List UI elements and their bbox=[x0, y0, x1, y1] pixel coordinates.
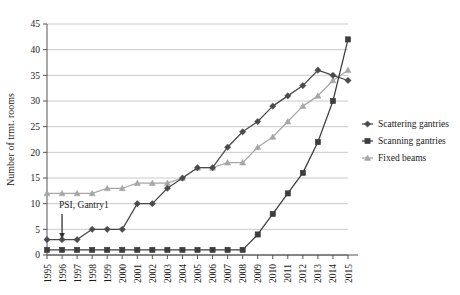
legend-entry-scanning-gantries: Scanning gantries bbox=[362, 136, 446, 146]
x-tick-label: 1997 bbox=[73, 264, 83, 283]
y-tick-label: 30 bbox=[31, 96, 41, 106]
data-point bbox=[255, 144, 261, 149]
legend-entry-scattering-gantries: Scattering gantries bbox=[362, 119, 449, 129]
line-chart: 0510152025303540451995199619971998199920… bbox=[0, 0, 460, 295]
data-point bbox=[210, 247, 215, 252]
x-tick-label: 2015 bbox=[344, 264, 354, 283]
y-axis-label-text: Number of trmt. rooms bbox=[5, 93, 16, 186]
legend-label: Scanning gantries bbox=[378, 136, 446, 146]
y-tick-label: 25 bbox=[31, 122, 41, 132]
data-point bbox=[225, 247, 230, 252]
data-point bbox=[270, 211, 275, 216]
data-point bbox=[135, 247, 140, 252]
legend-label: Fixed beams bbox=[378, 153, 427, 163]
y-axis-ticks: 051015202530354045 bbox=[31, 19, 48, 260]
data-point bbox=[134, 201, 140, 207]
x-tick-label: 2009 bbox=[253, 264, 263, 283]
x-tick-label: 2013 bbox=[313, 264, 323, 283]
data-point bbox=[330, 98, 335, 103]
data-point bbox=[180, 247, 185, 252]
x-tick-label: 2006 bbox=[208, 264, 218, 283]
y-tick-label: 20 bbox=[31, 148, 41, 158]
y-tick-label: 40 bbox=[31, 45, 41, 55]
chart-figure: 0510152025303540451995199619971998199920… bbox=[0, 0, 460, 295]
x-tick-label: 1999 bbox=[103, 264, 113, 283]
legend-marker bbox=[364, 121, 370, 127]
y-gridlines bbox=[47, 24, 348, 255]
data-point bbox=[195, 247, 200, 252]
y-tick-label: 45 bbox=[31, 19, 41, 29]
legend-label: Scattering gantries bbox=[378, 119, 449, 129]
y-tick-label: 15 bbox=[31, 173, 41, 183]
series-scanning-gantries bbox=[44, 37, 350, 253]
x-tick-label: 2002 bbox=[148, 264, 158, 283]
x-tick-label: 2005 bbox=[193, 264, 203, 283]
data-point bbox=[240, 247, 245, 252]
y-tick-label: 35 bbox=[31, 71, 41, 81]
y-axis-label: Number of trmt. rooms bbox=[5, 93, 16, 186]
series-line bbox=[47, 70, 348, 239]
data-point bbox=[44, 237, 50, 243]
data-point bbox=[345, 67, 351, 72]
data-point bbox=[59, 247, 64, 252]
data-point bbox=[75, 247, 80, 252]
x-tick-label: 2008 bbox=[238, 264, 248, 283]
legend-marker bbox=[365, 138, 370, 143]
x-tick-label: 1998 bbox=[88, 264, 98, 283]
annotation-label: PSI, Gantry1 bbox=[59, 200, 109, 210]
x-tick-label: 2004 bbox=[178, 264, 188, 283]
series-scattering-gantries bbox=[44, 67, 351, 243]
data-point bbox=[44, 247, 49, 252]
data-point bbox=[104, 226, 110, 232]
y-tick-label: 10 bbox=[31, 199, 41, 209]
y-tick-label: 5 bbox=[35, 225, 40, 235]
x-tick-label: 2011 bbox=[283, 264, 293, 283]
data-point bbox=[300, 170, 305, 175]
x-tick-label: 2003 bbox=[163, 264, 173, 283]
legend-entry-fixed-beams: Fixed beams bbox=[362, 153, 427, 163]
data-point bbox=[345, 37, 350, 42]
data-point bbox=[119, 226, 125, 232]
data-point bbox=[255, 232, 260, 237]
data-point bbox=[165, 247, 170, 252]
series-line bbox=[47, 39, 348, 249]
x-tick-label: 2014 bbox=[328, 264, 338, 283]
data-point bbox=[285, 191, 290, 196]
x-tick-label: 2001 bbox=[133, 264, 143, 283]
data-point bbox=[105, 247, 110, 252]
y-tick-label: 0 bbox=[35, 250, 40, 260]
data-point bbox=[315, 139, 320, 144]
annotation-psi-gantry1: PSI, Gantry1 bbox=[59, 200, 109, 239]
x-axis-ticks: 1995199619971998199920002001200220032004… bbox=[43, 255, 354, 283]
data-point bbox=[345, 77, 351, 83]
x-tick-label: 2007 bbox=[223, 264, 233, 283]
data-point bbox=[120, 247, 125, 252]
data-point bbox=[330, 72, 336, 78]
axes bbox=[47, 24, 358, 255]
x-tick-label: 1995 bbox=[43, 264, 53, 283]
x-tick-label: 2000 bbox=[118, 264, 128, 283]
data-point bbox=[150, 247, 155, 252]
x-tick-label: 1996 bbox=[58, 264, 68, 283]
x-tick-label: 2012 bbox=[298, 264, 308, 283]
x-tick-label: 2010 bbox=[268, 264, 278, 283]
data-point bbox=[90, 247, 95, 252]
